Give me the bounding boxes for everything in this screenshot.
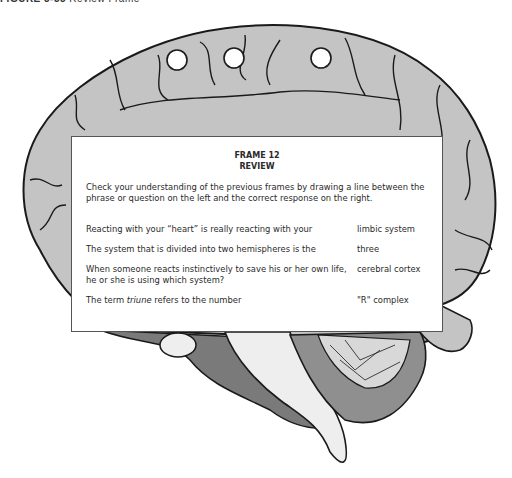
question-text: The term triune refers to the number [86,295,348,306]
punch-hole [224,48,244,68]
question-text: The system that is divided into two hemi… [86,244,348,255]
inner-opening [160,333,196,357]
question-text: Reacting with your “heart” is really rea… [86,224,348,235]
question-text: When someone reacts instinctively to sav… [86,264,348,286]
frame-number: FRAME 12 [72,150,442,161]
instructions-text: Check your understanding of the previous… [86,182,428,204]
response-text[interactable]: cerebral cortex [357,264,420,275]
frame-title: FRAME 12 REVIEW [72,150,442,172]
frame-heading: REVIEW [72,161,442,172]
response-text[interactable]: limbic system [357,224,415,235]
question-text-part: The term [86,295,127,305]
question-term: triune [127,295,152,305]
punch-hole [167,50,187,70]
review-frame-card: FRAME 12 REVIEW Check your understanding… [71,136,443,332]
response-text[interactable]: "R" complex [357,295,409,306]
punch-hole [311,48,331,68]
question-text-part: refers to the number [152,295,242,305]
response-text[interactable]: three [357,244,379,255]
